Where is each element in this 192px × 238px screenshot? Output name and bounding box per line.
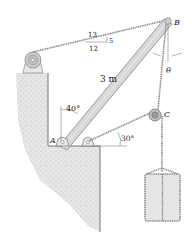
pulley-b [165, 18, 171, 24]
angle-30-label: 30° [121, 134, 135, 143]
wall-support [16, 73, 100, 232]
pulley-c [149, 109, 161, 121]
angle-40-label: 40° [66, 104, 80, 113]
crate [145, 168, 180, 221]
slope-run-label: 12 [89, 45, 98, 53]
slope-rise-label: 5 [109, 37, 113, 45]
pin-cable-anchor [82, 137, 94, 146]
theta-label: θ [166, 66, 171, 75]
point-c-label: C [164, 110, 170, 119]
point-b-label: B [173, 18, 180, 27]
statics-diagram: 13 5 12 θ 40 [0, 0, 192, 238]
angle-30-indicator: 30° [94, 132, 135, 146]
boom-ab [59, 19, 172, 150]
boom-length-label: 3 m [100, 74, 118, 84]
slope-hyp-label: 13 [88, 31, 97, 39]
top-pulley [23, 52, 43, 73]
point-a-label: A [49, 136, 56, 145]
cable-c-anchor [89, 113, 150, 141]
